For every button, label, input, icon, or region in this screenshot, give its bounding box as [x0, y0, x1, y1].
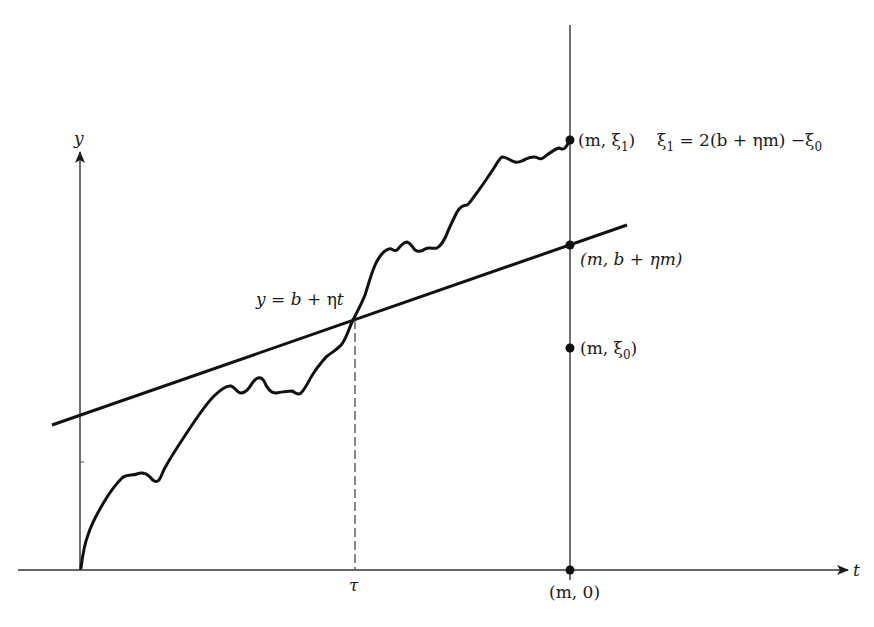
tau-label: τ	[349, 575, 359, 595]
point-m-0	[566, 566, 575, 575]
xi1-formula: ξ1 = 2(b + ηm) −ξ0	[657, 130, 822, 154]
point-m-boundary	[566, 241, 575, 250]
point-label-m-xi0: (m, ξ0)	[580, 338, 637, 362]
y-axis-label: y	[73, 128, 84, 148]
brownian-path	[81, 140, 570, 568]
t-axis-label: t	[853, 560, 860, 580]
point-m-xi1	[566, 136, 575, 145]
boundary-line	[52, 225, 627, 425]
point-label-m-0: (m, 0)	[549, 582, 600, 602]
point-m-xi0	[566, 344, 575, 353]
point-label-m-boundary: (m, b + ηm)	[580, 249, 682, 269]
reflection-principle-diagram: y t τ (m, 0) y = b + ηt (m, ξ1) ξ1 = 2(b…	[0, 0, 874, 627]
line-equation-label: y = b + ηt	[255, 289, 344, 309]
point-label-m-xi1: (m, ξ1)	[578, 130, 635, 154]
